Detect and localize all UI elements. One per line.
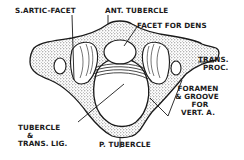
label-p-tubercle: P. TUBERCLE: [99, 141, 151, 149]
label-tubercle-1: TUBERCLE: [18, 124, 60, 132]
right-transverse-foramen: [171, 61, 181, 75]
atlas-illustration: [0, 0, 244, 160]
left-transverse-foramen: [54, 58, 66, 74]
label-tubercle-3: TRANS. LIG.: [18, 140, 67, 148]
label-facet-for-dens: FACET FOR DENS: [137, 22, 207, 30]
label-foramen-4: VERT. A.: [172, 109, 224, 117]
dens-space: [104, 40, 136, 64]
label-ant-tubercle: ANT. TUBERCLE: [105, 7, 168, 15]
label-trans-proc-2: PROC.: [203, 64, 228, 72]
label-s-artic-facet: S.ARTIC-FACET: [15, 7, 76, 15]
atlas-vertebra-diagram: S.ARTIC-FACET ANT. TUBERCLE FACET FOR DE…: [0, 0, 244, 160]
